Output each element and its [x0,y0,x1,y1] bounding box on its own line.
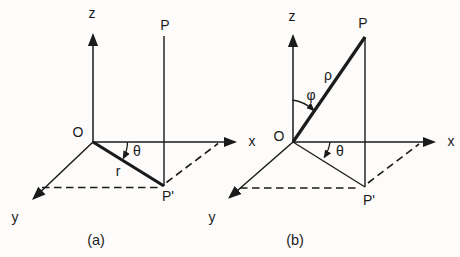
r-label: r [116,163,121,179]
point-p-prime-label: P' [162,188,174,204]
point-p-label: P [358,15,367,31]
dashed-x-edge [167,144,219,183]
r-segment [93,142,164,186]
y-axis-label: y [209,209,216,225]
theta-label: θ [336,143,344,159]
panel-b-caption: (b) [286,232,304,248]
point-p-prime-label: P' [363,192,375,208]
theta-arc [325,142,331,157]
figure-canvas: z x y O P P' r θ (a) z x y O P [0,0,460,257]
rho-segment [293,37,365,142]
panel-b: z x y O P P' ρ φ θ (b) [209,8,455,248]
origin-label: O [73,124,84,140]
x-axis-label: x [448,133,455,149]
theta-label: θ [133,143,141,159]
coordinate-diagrams-figure: z x y O P P' r θ (a) z x y O P [0,0,460,257]
point-p-label: P [160,17,169,33]
rho-label: ρ [324,67,332,83]
panel-a: z x y O P P' r θ (a) [12,5,256,248]
x-axis-label: x [249,133,256,149]
z-axis-label: z [89,5,96,21]
theta-arc [124,142,128,158]
phi-label: φ [306,87,315,103]
z-axis-label: z [289,8,296,24]
origin-label: O [274,128,285,144]
y-axis [34,142,94,199]
dashed-x-edge [368,144,419,183]
y-axis [230,142,294,198]
y-axis-label: y [12,209,19,225]
panel-a-caption: (a) [87,232,105,248]
